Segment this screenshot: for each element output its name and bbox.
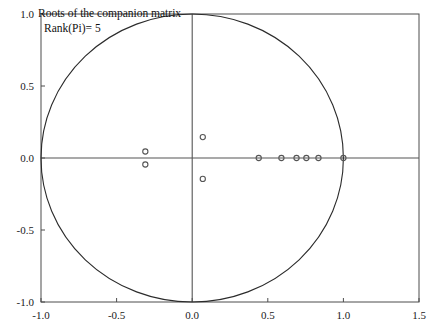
chart-title: Roots of the companion matrix [38, 8, 181, 20]
y-tick-label: -0.5 [4, 225, 34, 236]
x-tick-label: 0.0 [185, 310, 199, 321]
x-tick-label: -0.5 [108, 310, 125, 321]
x-tick-label: 1.0 [337, 310, 351, 321]
x-tick-label: -1.0 [32, 310, 49, 321]
chart-container: Roots of the companion matrix Rank(Pi)= … [0, 0, 436, 329]
y-tick-label: 0.5 [4, 81, 34, 92]
x-axis-ticks [41, 298, 419, 302]
origin-axes [41, 14, 419, 302]
y-tick-label: 0.0 [4, 153, 34, 164]
rank-annotation: Rank(Pi)= 5 [44, 23, 101, 35]
root-marker [143, 162, 148, 167]
x-tick-label: 1.5 [412, 310, 426, 321]
scatter-plot-canvas [0, 0, 436, 329]
y-tick-label: -1.0 [4, 297, 34, 308]
root-marker [200, 176, 205, 181]
x-tick-label: 0.5 [261, 310, 275, 321]
root-marker [200, 135, 205, 140]
y-tick-label: 1.0 [4, 9, 34, 20]
root-marker [143, 149, 148, 154]
